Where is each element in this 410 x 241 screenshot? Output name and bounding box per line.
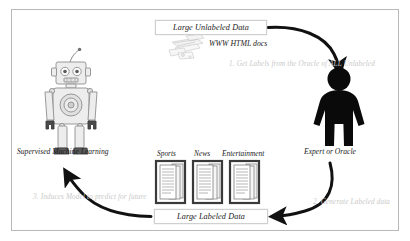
step-note-2: 2. Generate Labeled data — [313, 198, 390, 206]
node-label-labeled: Large Labeled Data — [177, 212, 245, 221]
caption-www-html-docs: WWW HTML docs — [209, 40, 267, 48]
caption-entertainment: Entertainment — [222, 150, 264, 157]
step-note-1: 1. Get Labels from the Oracle of ALL Unl… — [229, 60, 375, 68]
caption-news: News — [194, 150, 210, 157]
caption-expert-or-oracle: Expert or Oracle — [304, 148, 356, 156]
step-note-3: 3. Induces Model to predict for future — [33, 193, 147, 201]
node-label-unlabeled: Large Unlabeled Data — [173, 23, 249, 32]
diagram-canvas: Large Unlabeled Data Large Labeled Data … — [0, 0, 410, 241]
caption-supervised-machine-learning: Supervised Machine Learning — [17, 148, 109, 156]
caption-sports: Sports — [157, 150, 176, 157]
node-large-unlabeled-data[interactable]: Large Unlabeled Data — [155, 20, 267, 35]
node-large-labeled-data[interactable]: Large Labeled Data — [154, 209, 268, 224]
